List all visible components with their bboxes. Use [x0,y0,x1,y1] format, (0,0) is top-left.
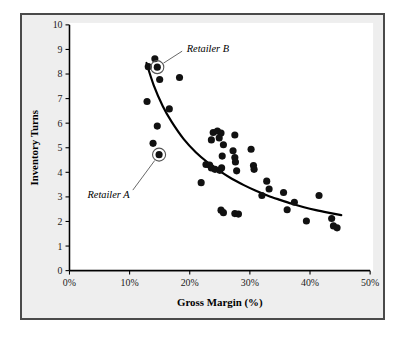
data-point [232,158,239,165]
data-point [166,105,173,112]
y-tick-label: 3 [58,191,63,202]
x-tick-label: 50% [361,277,379,288]
data-point [219,153,226,160]
x-tick-label: 0% [63,277,76,288]
y-axis-title: Inventory Turns [28,110,40,186]
y-tick-label: 2 [58,216,63,227]
y-tick-label: 5 [58,142,63,153]
data-point [284,206,291,213]
data-point [220,209,227,216]
y-axis-tick-labels: 012345678910 [53,19,63,276]
data-point [258,192,265,199]
data-point [176,74,183,81]
x-axis-title: Gross Margin (%) [177,296,263,309]
y-tick-label: 8 [58,68,63,79]
data-point [220,141,227,148]
data-point [280,189,287,196]
data-point [229,147,236,154]
x-tick-label: 30% [241,277,259,288]
data-point [198,179,205,186]
x-tick-label: 40% [301,277,319,288]
data-point [154,64,161,71]
y-tick-label: 0 [58,265,63,276]
data-point [266,185,273,192]
x-axis-tick-labels: 0%10%20%30%40%50% [63,277,379,288]
scatter-plot-svg: 012345678910 0%10%20%30%40%50% Retailer … [22,15,383,318]
data-point [251,166,258,173]
y-tick-label: 7 [58,93,63,104]
data-point [248,146,255,153]
data-point [154,123,161,130]
x-tick-label: 20% [181,277,199,288]
data-point [233,167,240,174]
y-tick-label: 9 [58,44,63,55]
data-point [216,134,223,141]
data-point [208,136,215,143]
annotation-label: Retailer B [186,43,230,54]
data-point [231,131,238,138]
data-point [149,140,156,147]
data-point [334,224,341,231]
y-tick-label: 10 [53,19,63,30]
plot-background [68,23,373,272]
data-point [156,151,163,158]
annotation-label: Retailer A [86,189,130,200]
data-point [303,217,310,224]
data-point [143,98,150,105]
data-point [291,199,298,206]
y-tick-label: 4 [58,167,63,178]
x-tick-label: 10% [121,277,139,288]
data-point [156,76,163,83]
chart-figure: 012345678910 0%10%20%30%40%50% Retailer … [20,13,385,320]
data-point [218,164,225,171]
data-point [315,192,322,199]
data-point [263,178,270,185]
y-tick-label: 1 [58,241,63,252]
y-tick-label: 6 [58,118,63,129]
data-point [328,215,335,222]
data-point [235,211,242,218]
